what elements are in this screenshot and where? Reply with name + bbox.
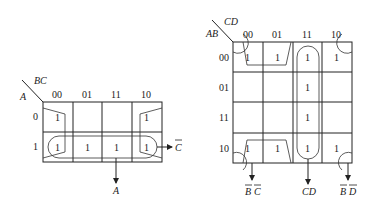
cell: 1 — [275, 143, 280, 154]
cell: 1 — [85, 142, 90, 153]
group-label-D: D — [348, 186, 357, 197]
group-loop-BbarDbar-tl — [233, 34, 248, 53]
kmap-3var: BC A 00 01 11 10 0 1 1 1 1 1 1 1 A C — [19, 75, 182, 196]
cell: 1 — [334, 52, 339, 63]
col-header: 01 — [272, 29, 282, 40]
group-loop-BbarDbar-br — [338, 152, 352, 170]
cell: 1 — [305, 112, 310, 123]
cell: 1 — [334, 143, 339, 154]
col-header: 11 — [111, 89, 121, 100]
kmap-diagram: BC A 00 01 11 10 0 1 1 1 1 1 1 1 A C — [0, 0, 376, 209]
group-label-CD: CD — [302, 186, 317, 197]
cell: 1 — [114, 142, 119, 153]
group-label-B: B — [245, 186, 251, 197]
group-label-C: C — [254, 186, 261, 197]
cell: 1 — [55, 142, 60, 153]
col-header: 01 — [82, 89, 92, 100]
row-header: 1 — [33, 141, 38, 152]
cell: 1 — [55, 112, 60, 123]
row-var-label: A — [19, 91, 27, 102]
col-var-label: CD — [224, 16, 239, 27]
kmap-4var: CD AB 00 01 11 10 00 01 11 10 1 1 1 1 1 … — [205, 16, 357, 197]
row-header: 00 — [219, 52, 229, 63]
col-header: 00 — [52, 89, 62, 100]
row-var-label: AB — [205, 28, 218, 39]
row-header: 0 — [33, 111, 38, 122]
cell: 1 — [305, 52, 310, 63]
group-loop-BbarCbar-top — [243, 42, 291, 65]
group-label-A: A — [112, 185, 120, 196]
col-header: 11 — [302, 29, 312, 40]
cell: 1 — [144, 112, 149, 123]
col-var-label: BC — [34, 75, 47, 86]
cell: 1 — [305, 82, 310, 93]
col-header: 10 — [331, 29, 341, 40]
group-loop-BbarDbar-tr — [337, 34, 352, 53]
row-header: 11 — [219, 112, 229, 123]
cell: 1 — [275, 52, 280, 63]
group-label-Cbar: C — [175, 142, 182, 153]
group-label-B: B — [340, 186, 346, 197]
cell: 1 — [144, 142, 149, 153]
group-loop-Cbar-left — [43, 108, 65, 158]
group-loop-BbarCbar-bottom — [243, 140, 291, 163]
cell: 1 — [305, 143, 310, 154]
row-header: 10 — [219, 143, 229, 154]
col-header: 10 — [141, 89, 151, 100]
row-header: 01 — [219, 82, 229, 93]
